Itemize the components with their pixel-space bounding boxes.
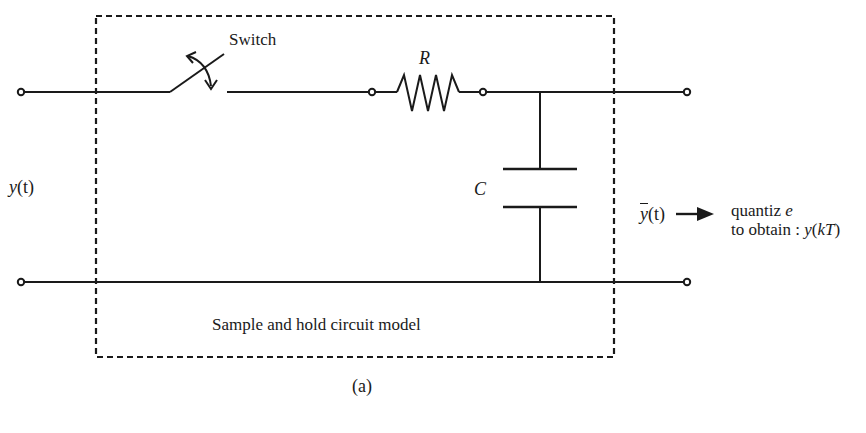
diagram-title: Sample and hold circuit model <box>212 316 421 333</box>
figure-caption: (a) <box>352 377 372 395</box>
terminal-top-right <box>684 89 690 95</box>
switch-label: Switch <box>229 31 276 48</box>
input-fn: y <box>9 177 17 197</box>
output-note-line2: to obtain : y(kT) <box>731 221 840 238</box>
output-note-line1: quantiz e <box>731 202 793 219</box>
output-fn: y <box>640 204 648 224</box>
input-signal-label: y(t) <box>9 178 34 196</box>
capacitor-label: C <box>474 180 486 198</box>
input-arg: (t) <box>17 177 34 197</box>
terminal-bottom-right <box>684 279 690 285</box>
resistor-label: R <box>419 49 430 67</box>
terminal-bottom-left <box>18 279 24 285</box>
circuit-boundary-box <box>96 16 614 357</box>
terminal-top-left <box>18 89 24 95</box>
node-r-right <box>480 89 486 95</box>
output-arrow-icon <box>697 207 714 221</box>
resistor-zigzag <box>397 75 459 111</box>
node-r-left <box>369 89 375 95</box>
output-signal-label: y(t) <box>640 205 665 223</box>
output-arg: (t) <box>648 204 665 224</box>
